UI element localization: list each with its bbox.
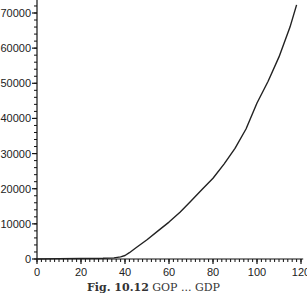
y-tick-label: 70000 [0, 7, 31, 19]
y-tick-label: 60000 [0, 42, 31, 54]
data-line [37, 5, 297, 259]
y-tick-label: 40000 [0, 112, 31, 124]
x-tick-label: 40 [119, 266, 131, 278]
y-tick-label: 50000 [0, 77, 31, 89]
x-tick-label: 0 [34, 266, 40, 278]
x-tick-label: 60 [163, 266, 175, 278]
y-tick-label: 30000 [0, 148, 31, 160]
y-tick-label: 0 [25, 253, 31, 265]
y-tick-label: 10000 [0, 218, 31, 230]
figure-caption: Fig. 10.12 GOP ... GDP [0, 281, 307, 293]
y-axis: 010000200003000040000500006000070000 [0, 0, 37, 265]
y-tick-label: 20000 [0, 183, 31, 195]
figure-label: Fig. 10.12 [87, 281, 149, 293]
x-tick-label: 120 [292, 266, 307, 278]
x-tick-label: 100 [248, 266, 266, 278]
figure-caption-text: GOP ... GDP [152, 281, 220, 293]
line-chart: 010000200003000040000500006000070000 020… [0, 0, 307, 280]
x-tick-label: 20 [75, 266, 87, 278]
x-axis: 020406080100120 [34, 259, 307, 278]
x-tick-label: 80 [207, 266, 219, 278]
